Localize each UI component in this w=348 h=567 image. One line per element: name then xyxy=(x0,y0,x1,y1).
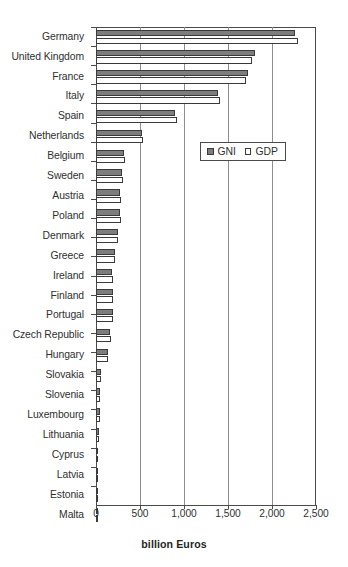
bar-gdp xyxy=(96,38,298,44)
bar-gni xyxy=(96,70,248,76)
bar-gdp xyxy=(96,436,99,442)
hollow-white-square-icon xyxy=(245,148,252,155)
bar-group xyxy=(96,306,316,326)
bar-gni xyxy=(96,30,295,36)
bar-gdp xyxy=(96,356,108,362)
bar-group xyxy=(96,405,316,425)
category-label: Finland xyxy=(0,286,89,306)
bar-gdp xyxy=(96,416,100,422)
x-axis-tick-label: 1,500 xyxy=(215,508,241,519)
legend-label-gni: GNI xyxy=(218,146,236,157)
bar-gni xyxy=(96,189,120,195)
category-label: Austria xyxy=(0,186,89,206)
bar-group xyxy=(96,27,316,47)
category-label: Belgium xyxy=(0,146,89,166)
bar-gni xyxy=(96,269,112,275)
x-axis-tick-label: 500 xyxy=(132,508,149,519)
bar-group xyxy=(96,465,316,485)
bar-group xyxy=(96,47,316,67)
bar-gdp xyxy=(96,316,113,322)
category-label: Slovakia xyxy=(0,365,89,385)
bar-gni xyxy=(96,110,175,116)
bar-gni xyxy=(96,90,218,96)
category-label: Estonia xyxy=(0,485,89,505)
bar-group xyxy=(96,286,316,306)
x-axis-tick-label: 2,500 xyxy=(303,508,329,519)
bar-gni xyxy=(96,150,124,156)
category-label: Greece xyxy=(0,246,89,266)
category-label: Hungary xyxy=(0,346,89,366)
bar-gni xyxy=(96,369,101,375)
bar-group xyxy=(96,67,316,87)
bar-group xyxy=(96,246,316,266)
bar-gdp xyxy=(96,495,98,501)
bar-group xyxy=(96,346,316,366)
x-axis-title: billion Euros xyxy=(0,538,348,550)
legend-item-gdp[interactable]: GDP xyxy=(245,146,278,157)
bar-gni xyxy=(96,408,100,414)
category-label: Czech Republic xyxy=(0,326,89,346)
x-axis-tick-label: 2,000 xyxy=(259,508,285,519)
bar-gdp xyxy=(96,475,98,481)
category-label: Cyprus xyxy=(0,445,89,465)
bar-gni xyxy=(96,388,100,394)
bar-group xyxy=(96,326,316,346)
category-label: Slovenia xyxy=(0,385,89,405)
bar-group xyxy=(96,425,316,445)
bar-gdp xyxy=(96,97,220,103)
bar-gdp xyxy=(96,197,121,203)
bar-chart: GermanyUnited KingdomFranceItalySpainNet… xyxy=(0,0,348,567)
bar-gdp xyxy=(96,396,100,402)
category-label: Italy xyxy=(0,87,89,107)
bar-gni xyxy=(96,349,108,355)
bar-gni xyxy=(96,209,120,215)
bar-gni xyxy=(96,448,98,454)
filled-gray-square-icon xyxy=(207,148,214,155)
category-label: Ireland xyxy=(0,266,89,286)
category-label: Spain xyxy=(0,107,89,127)
category-label: Sweden xyxy=(0,166,89,186)
bar-group xyxy=(96,166,316,186)
legend-item-gni[interactable]: GNI xyxy=(207,146,236,157)
bar-gdp xyxy=(96,157,125,163)
bar-gdp xyxy=(96,376,101,382)
category-label: Germany xyxy=(0,27,89,47)
category-label: Denmark xyxy=(0,226,89,246)
bar-gni xyxy=(96,249,115,255)
bar-gdp xyxy=(96,177,123,183)
category-label: France xyxy=(0,67,89,87)
bar-group xyxy=(96,206,316,226)
bar-group xyxy=(96,385,316,405)
bar-gni xyxy=(96,309,113,315)
y-axis-category-labels: GermanyUnited KingdomFranceItalySpainNet… xyxy=(0,27,89,505)
bar-gdp xyxy=(96,456,98,462)
bar-group xyxy=(96,107,316,127)
category-label: Latvia xyxy=(0,465,89,485)
bar-gni xyxy=(96,488,98,494)
bar-group xyxy=(96,365,316,385)
bar-group xyxy=(96,87,316,107)
bar-gdp xyxy=(96,256,115,262)
category-label: Poland xyxy=(0,206,89,226)
chart-legend[interactable]: GNI GDP xyxy=(200,142,286,161)
category-label: Malta xyxy=(0,505,89,525)
bar-gni xyxy=(96,428,99,434)
bar-gni xyxy=(96,130,142,136)
bar-group xyxy=(96,485,316,505)
bar-gni xyxy=(96,289,113,295)
legend-label-gdp: GDP xyxy=(255,146,278,157)
bar-group xyxy=(96,186,316,206)
bar-gdp xyxy=(96,117,177,123)
category-label: Portugal xyxy=(0,306,89,326)
bar-rows xyxy=(96,27,316,505)
bar-gni xyxy=(96,50,255,56)
bar-gdp xyxy=(96,296,113,302)
category-label: Lithuania xyxy=(0,425,89,445)
bar-gni xyxy=(96,169,122,175)
bar-gdp xyxy=(96,217,121,223)
category-label: Luxembourg xyxy=(0,405,89,425)
bar-gdp xyxy=(96,237,118,243)
bar-group xyxy=(96,226,316,246)
bar-group xyxy=(96,445,316,465)
bar-gdp xyxy=(96,57,252,63)
